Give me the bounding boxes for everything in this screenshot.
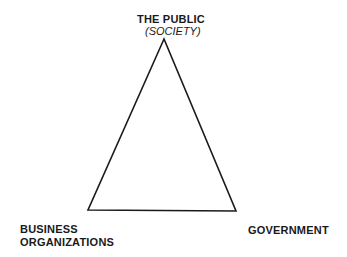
- label-organizations: ORGANIZATIONS: [20, 236, 114, 249]
- label-business: BUSINESS: [20, 223, 78, 236]
- label-government: GOVERNMENT: [248, 224, 329, 237]
- triangle-shape: [88, 39, 236, 211]
- triangle-diagram: [0, 0, 347, 257]
- label-society: (SOCIETY): [145, 25, 201, 38]
